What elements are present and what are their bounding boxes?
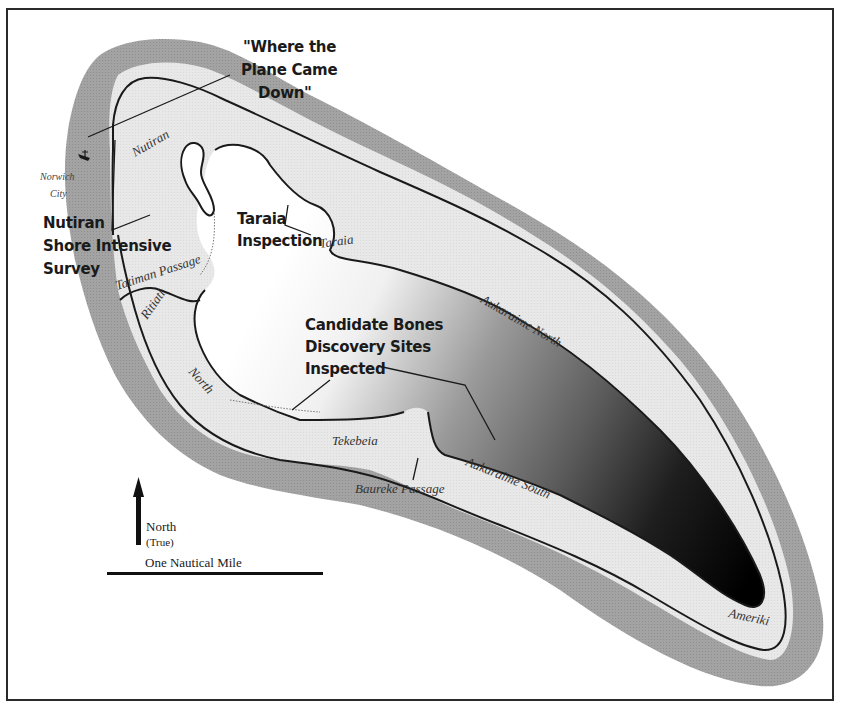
bones-annotation-line3: Inspected [305,360,385,378]
scale-bar [107,572,323,575]
plane-annotation-line2: Plane Came [241,61,337,79]
plane-annotation-line1: "Where the [243,38,336,56]
bones-annotation-line2: Discovery Sites [305,338,431,356]
nutiran-survey-line2: Shore Intensive [43,237,172,255]
tekebeia-label: Tekebeia [332,433,378,448]
taraia-inspection-line1: Taraia [237,210,286,228]
scale-bar-label: One Nautical Mile [145,555,242,570]
north-arrow-icon [133,477,144,545]
north-arrow-label: North [146,519,177,534]
norwich-city-label-1: Norwich [39,171,74,182]
plane-annotation-line3: Down" [258,84,312,102]
baureke-passage-label: Baureke Passage [355,481,445,496]
taraia-inspection-line2: Inspection [237,232,322,250]
atoll-map: "Where the Plane Came Down" Nutiran Shor… [0,0,842,716]
nutiran-survey-line1: Nutiran [43,214,105,232]
norwich-city-label-2: City [50,188,67,199]
bones-annotation-line1: Candidate Bones [305,316,444,334]
north-arrow-sublabel: (True) [146,536,174,549]
nutiran-survey-line3: Survey [43,260,100,278]
